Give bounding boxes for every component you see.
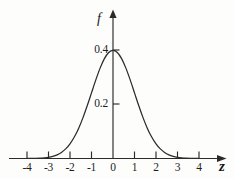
x-tick-label-0: 0 xyxy=(110,162,116,174)
x-tick-label--2: -2 xyxy=(65,162,74,174)
x-tick-label-2: 2 xyxy=(153,162,159,174)
plot-canvas xyxy=(0,0,234,179)
x-tick-label-1: 1 xyxy=(132,162,138,174)
y-axis-title: f xyxy=(97,12,101,26)
y-tick-marks xyxy=(113,50,120,104)
x-tick-label--4: -4 xyxy=(22,162,31,174)
y-tick-label-0.2: 0.2 xyxy=(80,98,108,110)
x-tick-label--1: -1 xyxy=(87,162,96,174)
x-tick-label-4: 4 xyxy=(196,162,202,174)
y-axis-arrowhead xyxy=(109,10,116,19)
x-tick-label--3: -3 xyxy=(44,162,53,174)
normal-distribution-figure: -4 -3 -2 -1 0 1 2 3 4 0.2 0.4 f z xyxy=(0,0,234,179)
x-tick-label-3: 3 xyxy=(175,162,181,174)
y-tick-label-0.4: 0.4 xyxy=(80,44,108,56)
x-axis-title: z xyxy=(219,159,225,174)
